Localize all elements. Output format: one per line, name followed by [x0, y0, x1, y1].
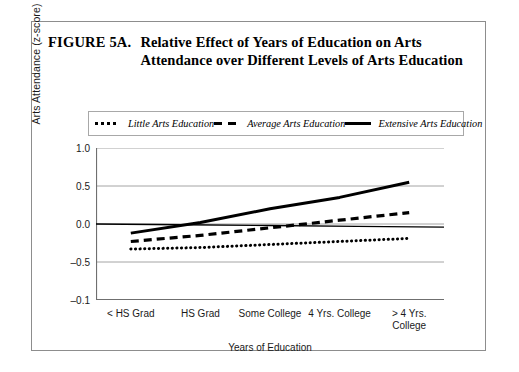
- legend-label-extensive: Extensive Arts Education: [378, 118, 482, 129]
- x-axis-tick-label: 4 Yrs. College: [308, 308, 371, 320]
- legend-label-little: Little Arts Education: [128, 118, 214, 129]
- series-line: [131, 238, 409, 249]
- legend-label-average: Average Arts Education: [247, 118, 345, 129]
- dashed-line-swatch-icon: [214, 119, 242, 128]
- x-axis-tick-labels: < HS GradHS GradSome College4 Yrs. Colle…: [96, 305, 444, 339]
- x-axis-tick-label: < HS Grad: [107, 308, 155, 320]
- y-axis-tick-label: 0.0: [56, 219, 90, 230]
- y-axis-tick-label: –0.5: [56, 257, 90, 268]
- dotted-line-swatch-icon: [95, 119, 123, 128]
- y-axis-title: Arts Attendance (z-score): [30, 0, 42, 144]
- data-series-layer: [96, 182, 444, 249]
- legend-item-extensive: Extensive Arts Education: [345, 118, 482, 129]
- chart-svg: [96, 148, 444, 300]
- plot-area: [96, 148, 444, 300]
- x-axis-title: Years of Education: [96, 342, 444, 353]
- solid-line-swatch-icon: [345, 119, 373, 128]
- series-line: [96, 224, 444, 227]
- y-axis-tick-label: 1.0: [56, 143, 90, 154]
- figure-frame: FIGURE 5A. Relative Effect of Years of E…: [31, 21, 486, 351]
- page-title: Relative Effect of Years of Education on…: [140, 34, 468, 69]
- y-axis-tick-label: 0.5: [56, 181, 90, 192]
- figure-title-block: FIGURE 5A. Relative Effect of Years of E…: [48, 34, 468, 69]
- figure-number-label: FIGURE 5A.: [48, 34, 131, 51]
- chart-legend: Little Arts Education Average Arts Educa…: [88, 111, 464, 136]
- x-axis-tick-label: > 4 Yrs. College: [392, 308, 427, 331]
- y-axis-tick-labels: 1.00.50.0–0.5–0.1: [54, 148, 90, 300]
- legend-item-little: Little Arts Education: [95, 118, 214, 129]
- y-axis-tick-label: –0.1: [56, 295, 90, 306]
- x-axis-tick-label: Some College: [239, 308, 302, 320]
- x-axis-tick-label: HS Grad: [181, 308, 220, 320]
- legend-item-average: Average Arts Education: [214, 118, 345, 129]
